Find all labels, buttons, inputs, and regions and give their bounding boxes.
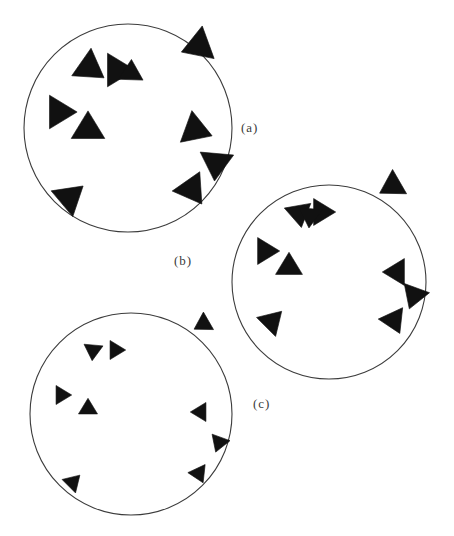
agent-triangle bbox=[190, 402, 206, 421]
agent-triangle bbox=[110, 340, 126, 359]
agent-triangle bbox=[198, 152, 234, 182]
agent-triangle bbox=[257, 302, 292, 337]
agent-triangle bbox=[83, 344, 103, 361]
agent-triangle bbox=[207, 434, 230, 455]
agent-triangle bbox=[62, 468, 87, 493]
panel-label-c: (c) bbox=[253, 396, 270, 412]
figure-container: (a) (b) (c) bbox=[0, 0, 454, 536]
triangles-in-circles-figure bbox=[0, 0, 454, 536]
agent-triangle bbox=[378, 308, 412, 339]
agent-triangle bbox=[180, 111, 217, 152]
panel-b bbox=[232, 170, 429, 379]
agent-triangle bbox=[382, 259, 404, 286]
agent-triangle bbox=[71, 111, 105, 139]
panel-a bbox=[24, 24, 234, 232]
agent-triangle bbox=[50, 95, 78, 129]
agent-triangle bbox=[258, 238, 280, 265]
agent-triangle bbox=[51, 173, 94, 216]
agent-triangle bbox=[188, 465, 212, 487]
panel-c bbox=[30, 312, 232, 515]
panel-label-a: (a) bbox=[241, 120, 258, 136]
agent-triangle bbox=[373, 170, 407, 206]
agent-triangle bbox=[56, 385, 72, 404]
agent-triangle bbox=[276, 252, 303, 274]
panel-label-b: (b) bbox=[174, 253, 192, 269]
agent-triangle bbox=[78, 398, 97, 414]
